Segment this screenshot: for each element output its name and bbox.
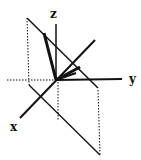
y-axis: [56, 79, 122, 80]
plane-right-dotted-edge: [98, 90, 100, 155]
coordinate-diagram: x y z: [0, 0, 141, 160]
plane-bottom-edge: [29, 85, 100, 155]
y-axis-label: y: [128, 72, 137, 86]
plane-left-dotted-edge: [27, 18, 29, 85]
z-axis-label: z: [50, 7, 57, 21]
x-axis-label: x: [10, 120, 18, 134]
